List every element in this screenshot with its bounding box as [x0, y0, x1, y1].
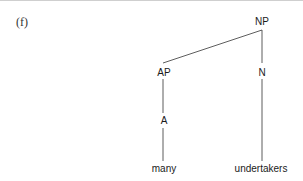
leaf-many: many: [152, 163, 176, 175]
node-np: NP: [255, 16, 269, 28]
syntax-tree-diagram: (f) NP AP N A many undertakers: [0, 0, 303, 181]
node-ap: AP: [157, 67, 170, 79]
node-n: N: [258, 67, 265, 79]
tree-edges: [0, 1, 303, 181]
node-a: A: [161, 115, 168, 127]
leaf-undertakers: undertakers: [235, 163, 288, 175]
edge-np-ap: [163, 30, 262, 63]
